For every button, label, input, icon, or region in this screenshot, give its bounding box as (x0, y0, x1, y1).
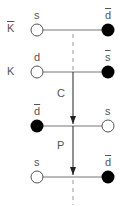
antiquark-label: d (105, 157, 111, 168)
open-quark-icon (31, 66, 43, 78)
meson-label-k: K (7, 66, 14, 77)
filled-antiquark-icon (31, 120, 44, 133)
open-quark-icon (102, 120, 114, 132)
open-quark-icon (31, 24, 43, 36)
antiquark-label: d (34, 106, 40, 117)
diagram-canvas (0, 0, 127, 207)
p-arrowhead-icon (70, 167, 76, 175)
open-quark-icon (31, 171, 43, 183)
c-arrowhead-icon (70, 116, 76, 124)
filled-antiquark-icon (102, 66, 115, 79)
operation-label-p: P (57, 140, 64, 151)
quark-label: s (34, 10, 40, 21)
quark-label: d (34, 52, 40, 63)
antiquark-label: d (105, 10, 111, 21)
quark-label: s (105, 106, 111, 117)
meson-label-kbar: K (7, 23, 14, 34)
quark-label: s (34, 157, 40, 168)
filled-antiquark-icon (102, 24, 115, 37)
antiquark-label: s (105, 52, 111, 63)
filled-antiquark-icon (102, 171, 115, 184)
operation-label-c: C (57, 88, 65, 99)
